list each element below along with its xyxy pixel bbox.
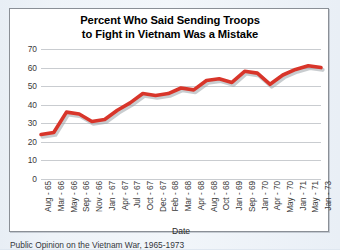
chart-title-line-2: to Fight in Vietnam Was a Mistake [82, 28, 258, 40]
x-axis-tick-label: Mar - 68 [184, 181, 193, 211]
y-axis-tick-label: 70 [28, 44, 37, 54]
x-axis-tick-label: Jan - 69 [235, 181, 244, 211]
x-axis-title: Date [41, 226, 321, 236]
gridline [41, 179, 321, 180]
plot-area: 010203040506070 [41, 49, 321, 179]
x-axis-tick-label: Nov - 66 [95, 181, 104, 212]
x-axis-tick-label: Aug - 68 [210, 181, 219, 212]
x-axis-tick-label: Oct - 67 [146, 181, 155, 210]
y-axis-tick-label: 30 [28, 118, 37, 128]
x-axis-tick-label: Feb - 68 [171, 181, 180, 212]
x-axis-tick-label: Apr - 67 [121, 181, 130, 210]
y-axis-tick-label: 60 [28, 63, 37, 73]
x-axis-tick-label: Jan - 71 [299, 181, 308, 211]
x-axis-tick-label: Jan - 67 [108, 181, 117, 211]
line-series [41, 49, 321, 179]
x-axis-tick-label: Apr - 70 [273, 181, 282, 210]
x-axis-tick-label: Apr - 68 [197, 181, 206, 210]
x-axis-tick-label: Jul - 67 [133, 181, 142, 208]
x-axis-tick-label: May - 70 [286, 181, 295, 213]
y-axis-tick-label: 10 [28, 155, 37, 165]
x-axis-tick-label: May - 66 [70, 181, 79, 213]
chart-title: Percent Who Said Sending Troops to Fight… [10, 14, 330, 41]
x-axis-tick-label: Jan - 70 [261, 181, 270, 211]
y-axis-tick-label: 0 [32, 174, 37, 184]
y-axis-tick-label: 40 [28, 100, 37, 110]
x-axis-tick-labels: Aug - 65Mar - 66May - 66Sep - 66Nov - 66… [41, 181, 321, 225]
x-axis-tick-label: Dec - 67 [159, 181, 168, 212]
y-axis-tick-label: 20 [28, 137, 37, 147]
x-axis-tick-label: Sep - 66 [82, 181, 91, 212]
x-axis-tick-label: Jan - 73 [324, 181, 333, 211]
line-series-path [41, 66, 321, 135]
x-axis-tick-label: Aug - 65 [44, 181, 53, 212]
y-axis-tick-label: 50 [28, 81, 37, 91]
figure-caption: Public Opinion on the Vietnam War, 1965-… [10, 240, 335, 250]
x-axis-tick-label: Mar - 66 [57, 181, 66, 211]
x-axis-tick-label: Sep - 69 [248, 181, 257, 212]
x-axis-tick-label: May - 71 [311, 181, 320, 213]
x-axis-tick-label: Oct - 68 [222, 181, 231, 210]
chart-title-line-1: Percent Who Said Sending Troops [80, 14, 260, 26]
chart-panel: Percent Who Said Sending Troops to Fight… [9, 8, 329, 232]
